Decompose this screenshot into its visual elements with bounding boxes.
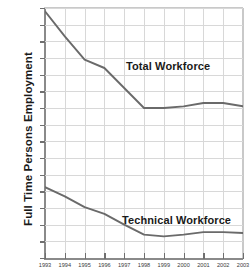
- y-axis-title: Full Time Persons Employment: [22, 14, 34, 264]
- series-label-total-workforce: Total Workforce: [126, 60, 210, 72]
- x-tick-label: 2003: [228, 262, 252, 268]
- employment-line-chart: Full Time Persons Employment 9,00010,000…: [0, 0, 252, 278]
- series-line: [45, 187, 243, 236]
- series-label-technical-workforce: Technical Workforce: [122, 214, 231, 226]
- x-tick-mark: [243, 253, 244, 259]
